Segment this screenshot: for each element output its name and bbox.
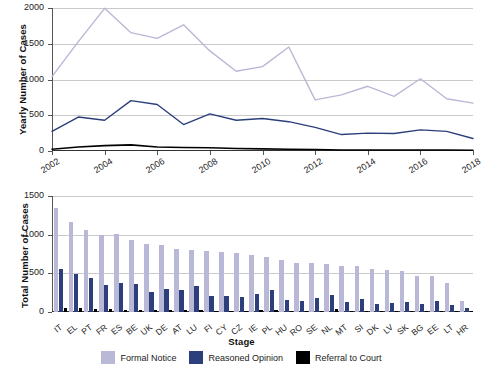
x-tick-mark xyxy=(420,151,421,155)
bar-referral-to-court-be xyxy=(139,310,142,312)
chart-legend: Formal NoticeReasoned OpinionReferral to… xyxy=(0,351,483,364)
category-label-si: SI xyxy=(352,322,364,335)
bar-group xyxy=(294,196,309,312)
bar-formal-notice-cy xyxy=(219,252,224,312)
bar-group xyxy=(324,196,339,312)
bar-formal-notice-fr xyxy=(99,235,104,312)
bar-referral-to-court-se xyxy=(320,311,323,312)
bar-group xyxy=(264,196,279,312)
bar-referral-to-court-cz xyxy=(244,311,247,312)
bar-referral-to-court-hr xyxy=(470,311,473,312)
bar-formal-notice-ee xyxy=(430,276,435,312)
bar-reasoned-opinion-uk xyxy=(149,292,153,312)
bar-group xyxy=(174,196,189,312)
bar-group xyxy=(279,196,294,312)
category-label-el: EL xyxy=(65,322,79,336)
bar-reasoned-opinion-hr xyxy=(465,308,469,312)
x-tick-label: 2018 xyxy=(460,156,482,175)
y-tick-label: 1000 xyxy=(6,74,44,84)
bar-group xyxy=(219,196,234,312)
bar-chart-plot-area: 050010001500 ITELPTFRESBEUKDEATLUFICYCZI… xyxy=(52,196,473,312)
bar-formal-notice-cz xyxy=(234,253,239,312)
legend-label: Referral to Court xyxy=(315,353,382,363)
bar-reasoned-opinion-mt xyxy=(345,302,349,312)
bar-formal-notice-sk xyxy=(400,271,405,312)
x-tick-mark xyxy=(473,151,474,155)
y-tick-label: 0 xyxy=(6,145,44,155)
category-label-cz: CZ xyxy=(229,322,244,337)
bar-group xyxy=(445,196,460,312)
bar-group xyxy=(430,196,445,312)
bar-referral-to-court-cy xyxy=(229,311,232,312)
bar-referral-to-court-si xyxy=(365,311,368,312)
category-label-lt: LT xyxy=(441,322,454,336)
bar-group xyxy=(339,196,354,312)
legend-swatch-referral-to-court xyxy=(296,351,310,364)
x-tick-label: 2006 xyxy=(144,156,166,175)
y-tick-label: 0 xyxy=(6,306,44,316)
x-tick-label: 2008 xyxy=(197,156,219,175)
bar-group xyxy=(385,196,400,312)
legend-swatch-formal-notice xyxy=(101,351,115,364)
bar-formal-notice-si xyxy=(355,266,360,312)
category-label-sk: SK xyxy=(395,322,410,337)
bar-formal-notice-nl xyxy=(324,264,329,312)
bar-group xyxy=(144,196,159,312)
legend-label: Formal Notice xyxy=(120,353,176,363)
bar-formal-notice-uk xyxy=(144,244,149,312)
x-tick-mark xyxy=(368,151,369,155)
category-label-se: SE xyxy=(304,322,319,337)
bar-reasoned-opinion-si xyxy=(360,299,364,312)
legend-item-referral-to-court[interactable]: Referral to Court xyxy=(296,351,382,364)
bar-reasoned-opinion-se xyxy=(315,298,319,312)
category-label-dk: DK xyxy=(364,322,379,337)
y-tick-label: 2000 xyxy=(6,2,44,12)
x-tick-mark xyxy=(210,151,211,155)
bar-group xyxy=(114,196,129,312)
bar-referral-to-court-bg xyxy=(425,311,428,312)
bar-group xyxy=(129,196,144,312)
x-tick-label: 2016 xyxy=(407,156,429,175)
bar-chart-x-axis-title: Stage xyxy=(0,336,483,347)
category-label-lv: LV xyxy=(381,322,395,336)
bar-group xyxy=(69,196,84,312)
bar-reasoned-opinion-pl xyxy=(270,290,274,312)
line-chart-series-paths xyxy=(52,8,473,151)
bar-referral-to-court-lv xyxy=(395,311,398,312)
x-tick-mark xyxy=(315,151,316,155)
bar-reasoned-opinion-sk xyxy=(405,302,409,312)
bar-reasoned-opinion-lv xyxy=(390,303,394,312)
bar-group xyxy=(204,196,219,312)
category-label-pt: PT xyxy=(79,322,94,337)
y-tick-label: 500 xyxy=(6,267,44,277)
bar-referral-to-court-nl xyxy=(335,309,338,312)
bar-formal-notice-be xyxy=(129,240,134,312)
bar-reasoned-opinion-bg xyxy=(420,304,424,313)
bar-referral-to-court-at xyxy=(184,310,187,312)
bar-referral-to-court-sk xyxy=(410,311,413,312)
bar-group xyxy=(355,196,370,312)
bar-referral-to-court-pt xyxy=(94,309,97,312)
bar-group xyxy=(415,196,430,312)
bar-referral-to-court-hu xyxy=(290,311,293,312)
bar-referral-to-court-lu xyxy=(199,310,202,312)
category-label-ee: EE xyxy=(425,322,440,337)
bar-reasoned-opinion-ie xyxy=(255,294,259,312)
legend-label: Reasoned Opinion xyxy=(208,353,283,363)
bar-referral-to-court-pl xyxy=(274,310,277,312)
bar-referral-to-court-mt xyxy=(350,311,353,312)
legend-swatch-reasoned-opinion xyxy=(189,351,203,364)
bar-reasoned-opinion-at xyxy=(179,290,183,312)
bar-group xyxy=(249,196,264,312)
category-label-de: DE xyxy=(154,322,169,337)
bar-formal-notice-el xyxy=(69,222,74,312)
bar-reasoned-opinion-dk xyxy=(375,304,379,312)
bar-group xyxy=(309,196,324,312)
legend-item-formal-notice[interactable]: Formal Notice xyxy=(101,351,176,364)
bar-reasoned-opinion-el xyxy=(74,274,78,312)
bar-chart-y-axis-title: Total Number of Cases xyxy=(19,191,30,321)
category-label-fi: FI xyxy=(202,322,214,335)
legend-item-reasoned-opinion[interactable]: Reasoned Opinion xyxy=(189,351,283,364)
bar-reasoned-opinion-de xyxy=(164,289,168,312)
x-tick-mark xyxy=(157,151,158,155)
